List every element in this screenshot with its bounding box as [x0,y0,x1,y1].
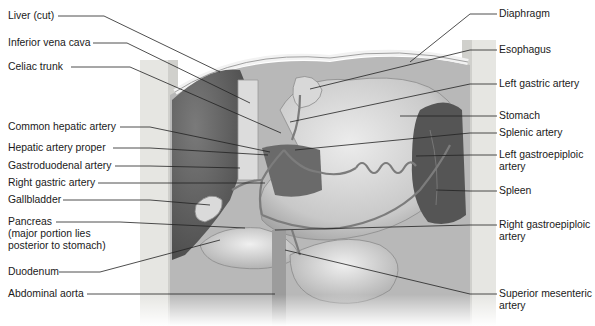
label-pancreas: Pancreas (major portion lies posterior t… [8,216,106,252]
label-right-gastroepiploic-artery: Right gastroepiploic artery [499,219,590,243]
label-rgea-line-2: artery [499,231,590,243]
label-diaphragm: Diaphragm [499,8,550,20]
label-stomach: Stomach [499,110,540,122]
label-rgea-line-1: Right gastroepiploic [499,219,590,231]
label-lgea-line-1: Left gastroepiploic [499,149,583,161]
label-common-hepatic-artery: Common hepatic artery [8,121,116,133]
label-left-gastroepiploic-artery: Left gastroepiploic artery [499,149,583,173]
label-spleen: Spleen [499,185,531,197]
label-left-gastric-artery: Left gastric artery [499,78,579,90]
label-duodenum: Duodenum [8,266,59,278]
label-splenic-artery: Splenic artery [499,127,563,139]
label-liver-cut: Liver (cut) [8,10,54,22]
label-celiac-trunk: Celiac trunk [8,61,63,73]
label-gastroduodenal-artery: Gastroduodenal artery [8,160,111,172]
label-abdominal-aorta: Abdominal aorta [8,288,84,300]
label-pancreas-line-2: (major portion lies [8,228,106,240]
label-sma-line-1: Superior mesenteric [499,288,592,300]
label-pancreas-line-1: Pancreas [8,216,106,228]
label-right-gastric-artery: Right gastric artery [8,177,95,189]
label-pancreas-line-3: posterior to stomach) [8,240,106,252]
label-inferior-vena-cava: Inferior vena cava [8,37,91,49]
label-hepatic-artery-proper: Hepatic artery proper [8,142,106,154]
label-sma-line-2: artery [499,300,592,312]
label-superior-mesenteric-artery: Superior mesenteric artery [499,288,592,312]
label-lgea-line-2: artery [499,161,583,173]
anatomy-figure: Liver (cut) Inferior vena cava Celiac tr… [0,0,595,326]
label-esophagus: Esophagus [499,44,551,56]
label-gallbladder: Gallbladder [8,194,61,206]
